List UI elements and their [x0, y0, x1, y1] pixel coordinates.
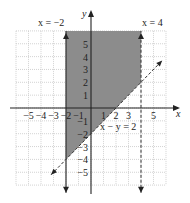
y-tick-label: 1 [83, 90, 88, 101]
y-axis-label: y [81, 8, 87, 19]
y-tick-label: −5 [77, 167, 88, 178]
y-axis-arrow-icon [88, 10, 94, 17]
shaded-region [66, 31, 141, 160]
y-tick-label: 4 [83, 52, 88, 63]
inequality-graph: −5−4−3−2−1123554321−1−2−3−4−5 y x x = −2… [0, 0, 190, 203]
x-tick-label: 5 [151, 110, 156, 121]
x-tick-label: 2 [114, 110, 119, 121]
x-tick-label: 1 [101, 110, 106, 121]
line-label-x-4: x = 4 [142, 17, 163, 28]
y-tick-label: 2 [83, 77, 88, 88]
arrow-x-neg2-bottom [63, 187, 69, 193]
x-tick-label: −3 [48, 110, 59, 121]
y-tick-label: 3 [83, 64, 88, 75]
y-tick-label: −3 [77, 142, 88, 153]
arrow-x-4-bottom [138, 187, 144, 193]
line-label-x-minus-y-2: x − y = 2 [100, 121, 136, 132]
x-tick-label: 3 [126, 110, 131, 121]
x-axis-label: x [175, 108, 181, 119]
x-tick-label: −5 [23, 110, 34, 121]
x-tick-label: −2 [61, 110, 72, 121]
y-tick-label: −1 [77, 116, 88, 127]
y-tick-label: 5 [83, 39, 88, 50]
y-tick-label: −2 [77, 129, 88, 140]
y-tick-label: −4 [77, 154, 88, 165]
line-label-x-neg2: x = −2 [38, 17, 64, 28]
x-tick-label: −4 [36, 110, 47, 121]
